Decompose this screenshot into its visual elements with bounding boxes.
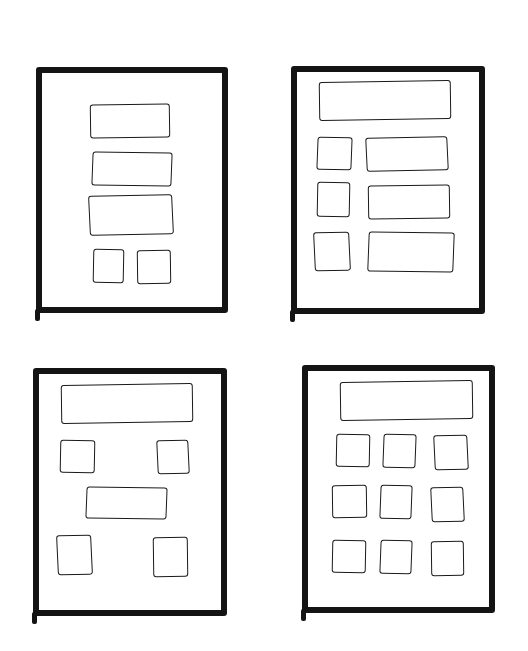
header-bar	[61, 383, 194, 424]
small-square	[60, 440, 96, 474]
grid-square	[379, 540, 412, 574]
wide-block	[90, 103, 170, 138]
grid-square	[332, 540, 367, 574]
grid-square	[430, 487, 465, 523]
wide-block	[367, 231, 455, 272]
grid-square	[336, 434, 371, 468]
small-square	[317, 182, 351, 218]
small-square	[137, 250, 171, 284]
grid-square	[431, 541, 464, 576]
grid-square	[379, 485, 412, 519]
small-square	[156, 440, 190, 475]
center-block	[85, 487, 167, 520]
small-square	[93, 249, 125, 284]
small-square	[313, 232, 351, 272]
small-square	[316, 137, 352, 170]
grid-square	[332, 485, 367, 518]
grid-square	[433, 435, 469, 471]
header-bar	[340, 380, 474, 421]
wide-block	[91, 152, 172, 187]
wide-block	[88, 194, 174, 236]
grid-square	[382, 434, 416, 468]
small-square	[56, 535, 93, 576]
wide-block	[368, 184, 450, 219]
wide-block	[365, 136, 449, 172]
small-square	[153, 537, 189, 577]
header-bar	[319, 80, 452, 121]
